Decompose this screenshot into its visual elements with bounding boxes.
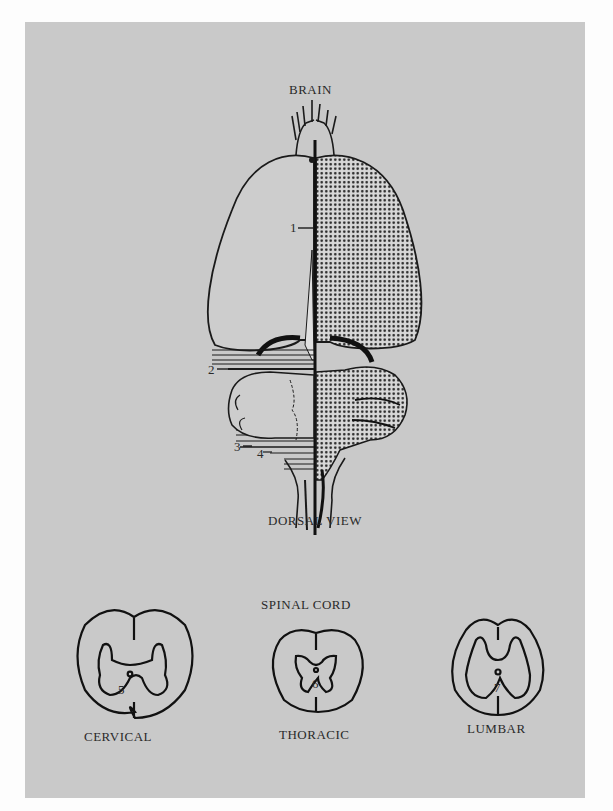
- brain-title: BRAIN: [289, 82, 332, 98]
- marker-6: 6: [312, 676, 319, 692]
- marker-1: 1: [290, 220, 297, 236]
- thoracic-label: THORACIC: [279, 727, 349, 743]
- thoracic-section: [273, 630, 363, 712]
- marker-3: 3: [234, 439, 241, 455]
- right-cerebellum: [316, 367, 407, 480]
- dorsal-view-label: DORSAL VIEW: [268, 513, 362, 529]
- left-hemisphere: [208, 156, 314, 351]
- marker-2: 2: [208, 362, 215, 378]
- marker-5: 5: [118, 682, 125, 698]
- cervical-label: CERVICAL: [84, 729, 152, 745]
- marker-7: 7: [494, 680, 501, 696]
- right-hemisphere: [316, 156, 421, 349]
- lumbar-label: LUMBAR: [467, 721, 526, 737]
- marker-4: 4: [257, 446, 264, 462]
- cervical-section: [78, 610, 193, 718]
- brain-diagram: [0, 0, 613, 811]
- lumbar-section: [452, 620, 543, 715]
- spinal-cord-title: SPINAL CORD: [261, 597, 351, 613]
